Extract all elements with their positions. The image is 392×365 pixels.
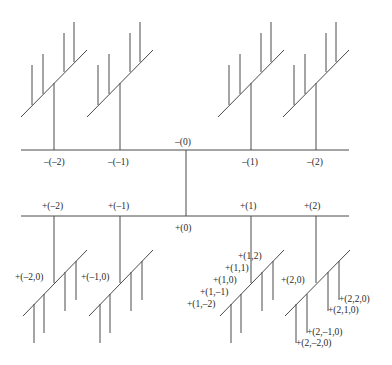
leaf-label: +(2,2,0) bbox=[339, 294, 370, 305]
leaf-label: +(1,0) bbox=[213, 275, 237, 286]
main-trunk bbox=[21, 150, 349, 216]
leaf-label: +(1,2) bbox=[238, 251, 262, 262]
leaf-label: +(2,–2,0) bbox=[296, 338, 331, 349]
minus-subtree-neg2 bbox=[21, 22, 87, 150]
leaf-label: +(2,1,0) bbox=[328, 305, 359, 316]
root-minus-label: –(0) bbox=[174, 137, 191, 148]
plus-branch-label: +(2) bbox=[304, 201, 320, 212]
root-plus-label: +(0) bbox=[175, 223, 191, 234]
leaf-label: +(1,1) bbox=[225, 263, 249, 274]
plus-branch-label: +(1) bbox=[240, 201, 256, 212]
minus-branch-label: –(2) bbox=[306, 157, 323, 168]
plus-branch-label: +(–2) bbox=[42, 201, 63, 212]
minus-branch-label: –(1) bbox=[241, 157, 258, 168]
plus-sub-label: +(2,0) bbox=[281, 275, 305, 286]
plus-sub-label: +(–1,0) bbox=[81, 272, 109, 283]
minus-subtree-pos1 bbox=[218, 22, 284, 150]
minus-subtree-neg1 bbox=[87, 22, 153, 150]
leaf-label: +(1,–2) bbox=[187, 299, 215, 310]
minus-branch-label: –(–1) bbox=[107, 157, 129, 168]
minus-branch-label: –(–2) bbox=[43, 157, 65, 168]
tree-diagram: –(0) +(0) –(–2) –(–1) –(1) bbox=[0, 0, 392, 365]
leaf-label: +(1,–1) bbox=[200, 287, 228, 298]
plus-sub-label: +(–2,0) bbox=[15, 272, 43, 283]
plus-branch-label: +(–1) bbox=[108, 201, 129, 212]
minus-subtree-pos2 bbox=[283, 22, 349, 150]
leaf-label: +(2,–1,0) bbox=[307, 327, 342, 338]
